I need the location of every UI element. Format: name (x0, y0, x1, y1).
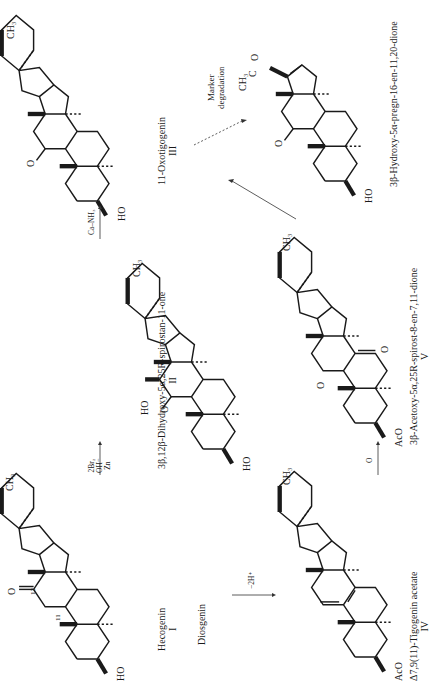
reagent-ii-to-iii: Ca–NH₃ (88, 209, 96, 235)
aco-label-v: AcO (393, 428, 404, 447)
locant-11: 11 (54, 614, 62, 621)
label-compound-ii: 3β,12β-Dihydroxy-5α,25R-spirostan-11-one… (156, 292, 178, 469)
label-11-oxotigogenin: 11-Oxotigogenin III (156, 117, 178, 185)
ho-label-i: HO (115, 667, 126, 681)
ch3-label-iv: CH₃ (281, 468, 292, 485)
reaction-scheme: HO O 11 12 CH₃ HO HO O CH₃ HO O CH₃ AcO … (0, 0, 431, 681)
arrow-iii-to-vi (194, 121, 242, 145)
o11-label-v: O (315, 382, 326, 389)
structure-11-oxotigogenin (2, 15, 115, 215)
ch3-label-iii: CH₃ (5, 22, 16, 39)
label-pregnene-dione: 3β-Hydroxy-5α-pregn-16-en-11,20-dione (388, 21, 399, 187)
ho-label-ii: HO (241, 457, 252, 471)
o7-label-v: O (379, 346, 390, 353)
reagent-marker-degradation: Marker degradation (206, 67, 226, 109)
label-compound-v: 3β-Acetoxy-5α,25R-spirost-8-en-7,11-dion… (408, 268, 430, 445)
ch3-label-i: CH₃ (4, 474, 15, 491)
structure-compound-ii (128, 263, 241, 463)
structure-hecogenin (2, 473, 115, 673)
reagent-iv-to-v: O (366, 458, 374, 463)
label-hecogenin: Hecogenin I (156, 608, 178, 651)
o11-label-vi: O (273, 140, 284, 147)
ho-label-iii: HO (116, 207, 127, 221)
ch3-label-v: CH₃ (281, 234, 292, 251)
o-label-i: O (6, 588, 17, 595)
arrow-v-to-iii (232, 181, 296, 219)
structure-pregnene-dione (270, 65, 363, 196)
ch3-label-vi: CH₃ (237, 74, 248, 91)
label-diosgenin: Diosgenin (196, 604, 207, 645)
structure-compound-iv (280, 471, 393, 671)
locant-12: 12 (29, 588, 37, 596)
aco-label-iv: AcO (393, 662, 404, 681)
reagent-i-to-ii: 2Br₂ OH⁻ Zn (88, 458, 112, 473)
ho12-label-ii: HO (139, 401, 150, 415)
c20-label-vi: C (247, 70, 258, 77)
label-compound-iv: Δ7,9(11)-Tigogenin acetate IV (408, 571, 430, 681)
o11-label-iii: O (25, 160, 36, 167)
ho-label-vi: HO (363, 189, 374, 203)
structure-compound-v (280, 237, 393, 437)
reagent-diosgenin-to-iv: −2H⁺ (248, 572, 256, 589)
o20-label-vi: O (249, 54, 260, 61)
ch3-label-ii: CH₃ (131, 260, 142, 277)
